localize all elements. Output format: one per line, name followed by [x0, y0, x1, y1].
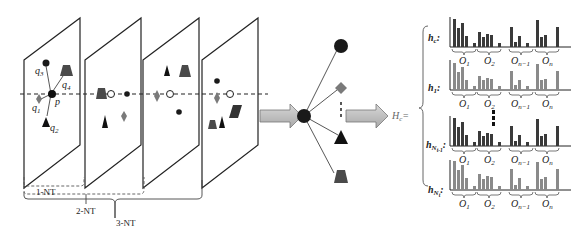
spoke-circle-icon	[334, 39, 348, 53]
group-label-on-1: On−1	[511, 56, 530, 68]
group-label-on-1: On−1	[511, 155, 530, 167]
equation-label: Hc=	[392, 111, 409, 123]
group-label-o2: O2	[484, 99, 495, 111]
label-p: p	[55, 97, 60, 107]
group-label-on-1: On−1	[511, 199, 530, 211]
group-label-on: On	[542, 155, 553, 167]
group-label-o2: O2	[484, 155, 495, 167]
row-label-hc: hc:	[428, 33, 440, 45]
group-label-on-1: On−1	[511, 99, 530, 111]
big-left-brace	[419, 26, 428, 186]
group-label-on: On	[542, 56, 553, 68]
label-q1: q1	[32, 103, 41, 115]
plane-4	[202, 18, 258, 188]
neighbor-q3-circle-icon	[43, 60, 50, 67]
label-2nt: 2-NT	[76, 207, 96, 216]
spoke-diamond-icon	[335, 82, 347, 94]
plane-2	[85, 18, 141, 188]
star-graph	[297, 39, 348, 183]
brace-3nt	[24, 180, 202, 218]
plane-3	[143, 18, 199, 188]
group-label-o2: O2	[484, 199, 495, 211]
row-label-hnt1: NhNt-1:	[426, 140, 446, 154]
group-label-o1: O1	[459, 99, 470, 111]
spoke-trapezoid-icon	[334, 170, 348, 183]
label-3nt: 3-NT	[116, 219, 136, 228]
group-label-o1: O1	[459, 155, 470, 167]
arrow-right-icon-2	[346, 104, 388, 128]
group-label-o1: O1	[459, 199, 470, 211]
vertical-ellipsis	[492, 110, 495, 126]
hub-circle-icon	[297, 109, 311, 123]
label-q2: q2	[50, 123, 59, 135]
spoke-triangle-icon	[334, 130, 348, 144]
row-label-h1: h1:	[428, 83, 440, 95]
label-1nt: 1-NT	[36, 188, 56, 197]
group-label-on: On	[542, 99, 553, 111]
group-label-o1: O1	[459, 56, 470, 68]
row-label-hnt: hNt:	[428, 185, 444, 199]
group-label-on: On	[542, 199, 553, 211]
label-q3: q3	[35, 66, 44, 78]
group-label-o2: O2	[484, 56, 495, 68]
arrow-right-icon	[260, 104, 302, 128]
label-q4: q4	[62, 80, 71, 92]
